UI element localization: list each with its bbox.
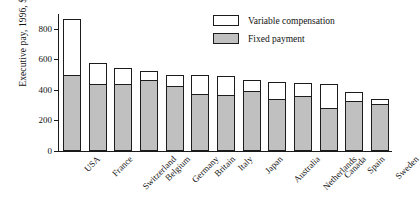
y-tick-mark <box>54 120 58 121</box>
gray-swatch <box>213 33 239 44</box>
y-tick-label: 800 <box>39 23 53 35</box>
x-label-sweden: Sweden <box>393 154 420 181</box>
x-label-usa: USA <box>82 154 102 174</box>
legend-item-fixed: Fixed payment <box>213 31 335 46</box>
x-axis-category-labels: USAFranceSwitzerlandBelgiumGermanyBritai… <box>59 154 392 216</box>
x-label-japan: Japan <box>263 154 285 176</box>
bar-japan <box>243 80 261 151</box>
bar-segment-variable <box>243 80 261 91</box>
x-label-italy: Italy <box>236 154 255 173</box>
bar-segment-fixed <box>320 108 338 151</box>
bar-belgium <box>140 71 158 151</box>
bar-segment-fixed <box>63 75 81 151</box>
x-axis-line <box>58 151 392 152</box>
bar-segment-variable <box>63 19 81 75</box>
bar-usa <box>63 19 81 151</box>
white-swatch <box>213 15 239 26</box>
bar-segment-variable <box>320 84 338 108</box>
bar-segment-fixed <box>140 80 158 151</box>
bar-segment-fixed <box>371 104 389 151</box>
bar-segment-fixed <box>191 94 209 151</box>
bar-spain <box>345 92 363 151</box>
bar-segment-variable <box>345 92 363 101</box>
y-tick-label: 200 <box>39 114 53 126</box>
bar-germany <box>166 75 184 151</box>
y-tick-label: 0 <box>48 145 53 157</box>
y-tick-label: 600 <box>39 53 53 65</box>
bar-segment-variable <box>114 68 132 84</box>
bar-segment-fixed <box>89 84 107 151</box>
bar-segment-variable <box>140 71 158 80</box>
x-label-spain: Spain <box>365 154 387 176</box>
bar-france <box>89 63 107 151</box>
legend-item-label: Fixed payment <box>248 34 305 44</box>
bar-segment-fixed <box>166 86 184 151</box>
bar-switzerland <box>114 68 132 151</box>
bar-britain <box>191 75 209 151</box>
bar-segment-fixed <box>294 96 312 151</box>
bar-segment-fixed <box>268 99 286 151</box>
bar-segment-variable <box>294 83 312 97</box>
bar-segment-variable <box>191 75 209 94</box>
bar-segment-variable <box>89 63 107 84</box>
bar-netherlands <box>294 83 312 151</box>
bar-segment-variable <box>217 76 235 95</box>
y-tick-mark <box>54 29 58 30</box>
x-label-australia: Australia <box>292 154 322 184</box>
chart-legend: Variable compensationFixed payment <box>213 13 335 49</box>
bar-sweden <box>371 99 389 151</box>
bar-segment-fixed <box>217 95 235 151</box>
bar-segment-variable <box>268 82 286 100</box>
bar-australia <box>268 82 286 151</box>
y-tick-mark <box>54 90 58 91</box>
y-tick-mark <box>54 151 58 152</box>
legend-item-variable: Variable compensation <box>213 13 335 28</box>
y-tick-mark <box>54 59 58 60</box>
y-axis-title: Executive pay, 1996, $000 <box>18 0 28 105</box>
bar-segment-fixed <box>114 84 132 151</box>
bar-canada <box>320 84 338 151</box>
x-label-france: France <box>110 154 134 178</box>
bar-segment-fixed <box>243 91 261 151</box>
bar-segment-fixed <box>345 101 363 151</box>
legend-item-label: Variable compensation <box>248 16 335 26</box>
bar-italy <box>217 76 235 151</box>
bar-segment-variable <box>166 75 184 86</box>
y-tick-label: 400 <box>39 84 53 96</box>
